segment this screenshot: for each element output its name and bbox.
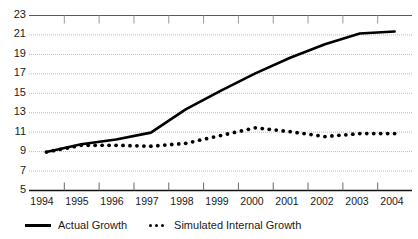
legend-item-actual-growth: Actual Growth — [25, 219, 127, 231]
x-tick-label: 2004 — [369, 196, 415, 207]
y-tick-label: 21 — [2, 28, 26, 39]
y-tick-label: 7 — [2, 165, 26, 176]
growth-line-chart: 23 21 19 17 15 13 11 9 7 5 1994 1995 199… — [0, 0, 418, 239]
y-tick-label: 19 — [2, 48, 26, 59]
y-tick-label: 15 — [2, 87, 26, 98]
y-tick-label: 17 — [2, 67, 26, 78]
y-tick-label: 9 — [2, 145, 26, 156]
y-tick-label: 23 — [2, 9, 26, 20]
solid-line-marker-icon — [25, 224, 51, 227]
dotted-line-marker-icon — [149, 224, 167, 227]
y-tick-label: 5 — [2, 184, 26, 195]
y-tick-label: 11 — [2, 126, 26, 137]
legend-label: Actual Growth — [58, 219, 127, 231]
chart-legend: Actual Growth Simulated Internal Growth — [25, 219, 301, 231]
legend-label: Simulated Internal Growth — [174, 219, 301, 231]
legend-item-simulated-internal-growth: Simulated Internal Growth — [149, 219, 301, 231]
y-tick-label: 13 — [2, 106, 26, 117]
